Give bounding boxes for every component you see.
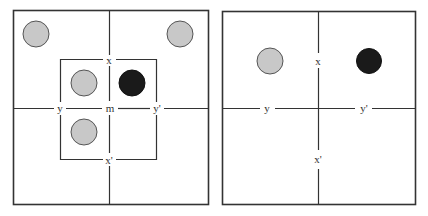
diagram-canvas: x x' y y' m x x' y y' — [0, 0, 428, 216]
disc-corner-top-left — [23, 21, 49, 47]
disc-corner-top-right — [167, 21, 193, 47]
label-left-y: y — [57, 102, 63, 114]
left-panel: x x' y y' m — [13, 10, 209, 205]
label-left-x: x — [106, 54, 112, 66]
label-left-y-prime: y' — [153, 102, 161, 114]
label-left-x-prime: x' — [105, 154, 113, 166]
disc-inner-top-right — [119, 70, 145, 96]
label-right-x-prime: x' — [314, 153, 322, 165]
label-right-x: x — [315, 55, 321, 67]
disc-top-right — [357, 49, 382, 74]
disc-top-left — [257, 48, 283, 74]
disc-inner-top-left — [71, 70, 97, 96]
disc-inner-bottom-left — [71, 119, 97, 145]
label-right-y-prime: y' — [360, 102, 368, 114]
right-panel: x x' y y' — [222, 11, 416, 205]
label-left-m: m — [106, 102, 115, 114]
label-right-y: y — [264, 102, 270, 114]
